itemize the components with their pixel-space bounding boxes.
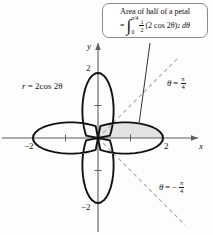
integral-upper-limit: π/4 xyxy=(131,16,138,22)
curve-label-equals: = xyxy=(28,81,33,91)
callout-box: Area of half of a petal = ∫ π/4 0 1 2 (2… xyxy=(102,3,208,38)
y-axis-arrow xyxy=(95,43,101,50)
curve-label-r: r xyxy=(22,81,26,91)
y-tick-label-pos2: 2 xyxy=(86,64,91,73)
formula-equals: = xyxy=(120,22,125,30)
four-denominator-positive: 4 xyxy=(181,84,184,91)
polar-area-figure: Area of half of a petal = ∫ π/4 0 1 2 (2… xyxy=(0,0,213,235)
fraction-denominator: 2 xyxy=(140,26,143,33)
y-tick-label-neg2: −2 xyxy=(81,203,91,212)
callout-title: Area of half of a petal xyxy=(106,7,204,16)
callout-leader-line xyxy=(139,43,150,124)
four-denominator-negative: 4 xyxy=(180,188,183,195)
integral-group: ∫ π/4 0 xyxy=(127,18,138,33)
theta-symbol-positive: θ xyxy=(167,79,171,88)
integral-limits: π/4 0 xyxy=(130,18,137,33)
integral-lower-limit: 0 xyxy=(129,30,136,36)
curve-equation-label: r = 2cos 2θ xyxy=(22,82,63,91)
x-axis-arrow xyxy=(191,135,198,141)
theta-symbol-negative: θ xyxy=(159,183,163,192)
theta-equals-negative: = xyxy=(165,183,170,192)
x-tick-label-pos2: 2 xyxy=(164,142,169,151)
neg-pi-over-four-fraction: π 4 xyxy=(179,180,184,194)
theta-minus-sign: − xyxy=(172,183,177,192)
fraction-numerator: 1 xyxy=(140,19,143,26)
curve-label-expression: 2cos 2θ xyxy=(35,81,63,91)
y-axis-label: y xyxy=(87,42,91,51)
ray-label-theta-pi-over-4: θ = π 4 xyxy=(167,76,186,90)
x-axis-label: x xyxy=(199,142,203,151)
callout-formula: = ∫ π/4 0 1 2 (2 cos 2θ) 2 dθ xyxy=(106,18,204,33)
x-tick-label-neg2: −2 xyxy=(24,142,34,151)
differential-dtheta: dθ xyxy=(182,22,190,30)
integrand-expression: (2 cos 2θ) xyxy=(145,22,177,30)
theta-equals-positive: = xyxy=(173,79,178,88)
ray-label-theta-neg-pi-over-4: θ = − π 4 xyxy=(159,180,184,194)
pi-over-four-fraction: π 4 xyxy=(181,76,186,90)
one-half-fraction: 1 2 xyxy=(139,19,144,33)
